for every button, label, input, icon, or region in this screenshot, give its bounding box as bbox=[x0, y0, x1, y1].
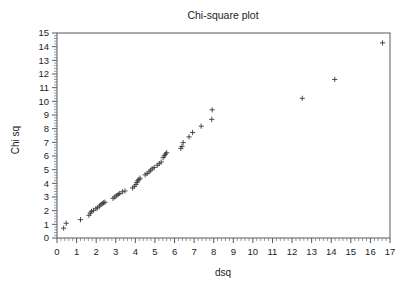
x-tick-label: 9 bbox=[231, 246, 236, 257]
y-tick-label: 11 bbox=[39, 82, 49, 93]
x-tick-label: 17 bbox=[385, 246, 396, 257]
data-point bbox=[164, 150, 169, 155]
x-tick-label: 4 bbox=[133, 246, 138, 257]
data-point bbox=[78, 217, 83, 222]
y-tick-label: 10 bbox=[38, 96, 49, 107]
plot-frame bbox=[57, 33, 390, 238]
x-axis-tick-labels: 01234567891011121314151617 bbox=[54, 246, 395, 257]
x-tick-label: 0 bbox=[54, 246, 59, 257]
y-tick-label: 5 bbox=[44, 164, 49, 175]
y-tick-label: 9 bbox=[44, 109, 49, 120]
data-point bbox=[209, 117, 214, 122]
x-tick-label: 7 bbox=[191, 246, 196, 257]
x-tick-label: 2 bbox=[94, 246, 99, 257]
y-tick-label: 2 bbox=[44, 205, 49, 216]
chart-title-group: Chi-square plot bbox=[187, 9, 258, 21]
x-tick-label: 13 bbox=[306, 246, 317, 257]
data-point bbox=[210, 107, 215, 112]
data-point bbox=[190, 130, 195, 135]
y-tick-label: 1 bbox=[44, 219, 49, 230]
plot-canvas: Chi-square plot 012345678910111213141516… bbox=[0, 0, 413, 289]
data-point bbox=[380, 40, 385, 45]
x-tick-label: 8 bbox=[211, 246, 216, 257]
y-tick-label: 7 bbox=[44, 137, 49, 148]
x-tick-label: 3 bbox=[113, 246, 118, 257]
data-point bbox=[137, 176, 142, 181]
y-axis-ticks bbox=[52, 33, 57, 238]
chi-square-plot-figure: Chi-square plot 012345678910111213141516… bbox=[0, 0, 413, 289]
data-point bbox=[300, 96, 305, 101]
chart-title: Chi-square plot bbox=[187, 9, 258, 21]
data-point bbox=[186, 134, 191, 139]
y-tick-label: 4 bbox=[44, 178, 49, 189]
x-tick-label: 12 bbox=[287, 246, 298, 257]
y-axis-title-group: Chi sq bbox=[10, 126, 21, 154]
x-tick-label: 15 bbox=[346, 246, 357, 257]
y-axis-tick-labels: 0123456789101112131415 bbox=[38, 27, 49, 243]
data-point-series bbox=[61, 40, 385, 231]
x-axis-title: dsq bbox=[215, 267, 231, 278]
x-tick-label: 10 bbox=[248, 246, 259, 257]
y-tick-label: 8 bbox=[44, 123, 49, 134]
x-tick-label: 1 bbox=[74, 246, 79, 257]
y-tick-label: 0 bbox=[44, 232, 49, 243]
x-tick-label: 11 bbox=[268, 246, 278, 257]
data-point bbox=[61, 226, 66, 231]
data-point bbox=[332, 77, 337, 82]
data-point bbox=[199, 124, 204, 129]
y-tick-label: 3 bbox=[44, 191, 49, 202]
x-tick-label: 6 bbox=[172, 246, 177, 257]
y-tick-label: 13 bbox=[38, 55, 49, 66]
y-tick-label: 14 bbox=[38, 41, 49, 52]
x-axis-ticks bbox=[57, 238, 390, 243]
y-axis-title: Chi sq bbox=[10, 126, 21, 154]
x-tick-label: 16 bbox=[365, 246, 376, 257]
x-tick-label: 14 bbox=[326, 246, 337, 257]
data-point bbox=[64, 221, 69, 226]
y-tick-label: 6 bbox=[44, 150, 49, 161]
x-axis-title-group: dsq bbox=[215, 267, 231, 278]
data-point bbox=[122, 188, 127, 193]
x-tick-label: 5 bbox=[152, 246, 157, 257]
data-point bbox=[181, 140, 186, 145]
axis-frame bbox=[57, 33, 390, 238]
y-tick-label: 15 bbox=[38, 27, 49, 38]
y-tick-label: 12 bbox=[38, 68, 49, 79]
